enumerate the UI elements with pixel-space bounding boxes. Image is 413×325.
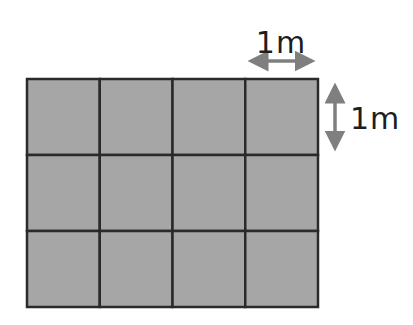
grid-cell xyxy=(173,155,246,231)
grid-cell xyxy=(173,231,246,307)
vertical-dimension-label: 1m xyxy=(350,101,400,136)
grid-cell xyxy=(27,155,100,231)
grid-cell xyxy=(245,155,318,231)
square-grid xyxy=(27,79,318,307)
grid-diagram: 1m 1m xyxy=(0,0,413,325)
vertical-dimension: 1m xyxy=(335,86,400,148)
grid-cell xyxy=(173,79,246,155)
grid-cell xyxy=(100,155,173,231)
grid-cell xyxy=(100,231,173,307)
grid-cell xyxy=(27,231,100,307)
horizontal-dimension: 1m xyxy=(251,25,312,61)
grid-cell xyxy=(245,231,318,307)
horizontal-dimension-label: 1m xyxy=(256,25,306,60)
grid-cell xyxy=(27,79,100,155)
grid-cell xyxy=(245,79,318,155)
grid-cell xyxy=(100,79,173,155)
